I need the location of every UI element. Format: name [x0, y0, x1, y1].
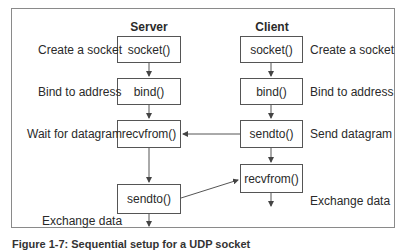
figure-caption: Figure 1-7: Sequential setup for a UDP s…	[12, 238, 250, 250]
connector-arrows	[0, 0, 408, 250]
